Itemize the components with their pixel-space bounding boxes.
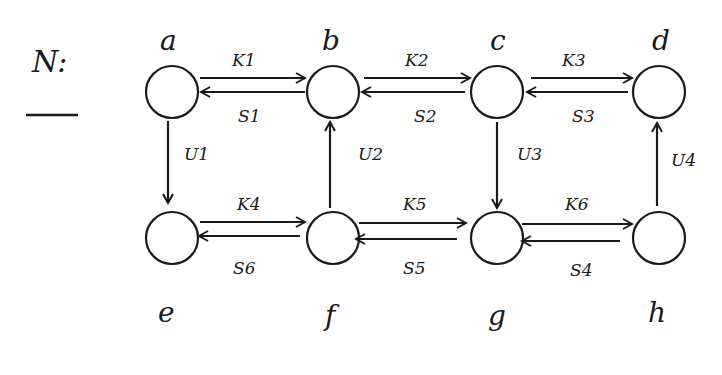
edge-label-u2: U2 <box>358 144 383 164</box>
node-label-g: g <box>488 299 506 332</box>
edge-label-k3: K3 <box>561 50 586 70</box>
node-e <box>146 212 198 264</box>
node-c <box>471 66 523 118</box>
node-f <box>307 212 359 264</box>
node-b <box>307 66 359 118</box>
node-label-a: a <box>160 24 177 57</box>
edge-label-k5: K5 <box>402 194 427 214</box>
node-label-f: f <box>323 299 340 332</box>
node-label-e: e <box>158 296 175 329</box>
edge-label-s1: S1 <box>238 106 260 126</box>
edge-label-s6: S6 <box>233 258 256 278</box>
node-label-b: b <box>322 24 340 57</box>
edge-label-u1: U1 <box>184 144 209 164</box>
edge-label-k1: K1 <box>231 50 256 70</box>
node-label-c: c <box>490 24 506 57</box>
graph-title: N: <box>31 44 67 79</box>
edge-label-s2: S2 <box>414 106 436 126</box>
edge-label-k6: K6 <box>564 194 589 214</box>
edge-label-k4: K4 <box>236 194 261 214</box>
edge-label-k2: K2 <box>404 50 429 70</box>
edge-label-s5: S5 <box>403 258 425 278</box>
edge-label-s4: S4 <box>570 260 592 280</box>
node-g <box>471 212 523 264</box>
node-a <box>146 66 198 118</box>
node-label-h: h <box>648 296 666 329</box>
node-label-d: d <box>652 24 670 57</box>
edge-label-s3: S3 <box>572 106 594 126</box>
node-h <box>633 212 685 264</box>
node-d <box>633 66 685 118</box>
edge-label-u3: U3 <box>517 144 542 164</box>
edge-label-u4: U4 <box>671 150 696 170</box>
network-diagram: N: a b c d e f g h K1 <box>0 0 722 375</box>
